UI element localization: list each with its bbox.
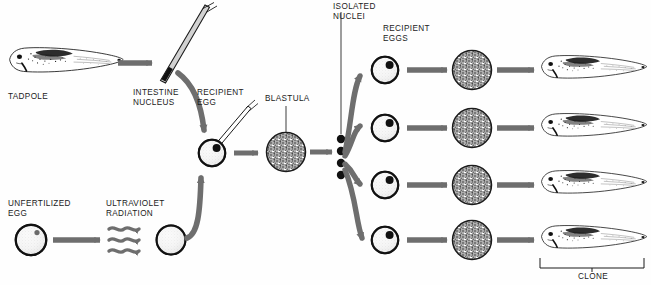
nuclei-distribution-arrows — [345, 76, 362, 238]
nucleus-dot-1 — [337, 135, 345, 143]
recipient-egg-row-3 — [372, 172, 398, 198]
blastula-row-4 — [453, 221, 492, 260]
tadpole-illustration — [10, 48, 124, 72]
label-intestine-nucleus: INTESTINE NUCLEUS — [133, 88, 179, 107]
blastula-row-2 — [453, 109, 492, 148]
recipient-egg-row-1 — [372, 57, 398, 83]
blastula-row-3 — [453, 166, 492, 205]
label-ultraviolet-radiation: ULTRAVIOLET RADIATION — [106, 199, 165, 218]
recipient-egg-row-4 — [372, 227, 398, 253]
uv-wave-2 — [109, 239, 139, 242]
label-recipient-egg: RECIPIENT EGG — [197, 88, 244, 107]
clone-row-4 — [372, 221, 647, 260]
clone-tadpole-row-2 — [542, 114, 647, 137]
micropipette-intestine-nucleus — [161, 3, 218, 84]
curved-arrow-enucleated-to-recipient — [187, 178, 201, 238]
label-tadpole: TADPOLE — [8, 92, 48, 102]
enucleated-egg — [157, 226, 186, 255]
recipient-egg-injection — [199, 100, 258, 166]
recipient-egg-row-2 — [372, 115, 398, 141]
uv-wave-1 — [109, 228, 139, 231]
clone-tadpole-row-1 — [542, 56, 647, 79]
egg-nucleus-dot — [34, 230, 39, 235]
clone-bracket — [540, 258, 644, 272]
label-isolated-nuclei: ISOLATED NUCLEI — [333, 2, 376, 21]
label-blastula: BLASTULA — [265, 94, 310, 104]
cloning-diagram: TADPOLE INTESTINE NUCLEUS RECIPIENT EGG … — [0, 0, 651, 285]
clone-row-1 — [372, 51, 647, 90]
uv-wave-3 — [109, 250, 139, 253]
label-recipient-eggs: RECIPIENT EGGS — [383, 24, 430, 43]
label-clone: CLONE — [578, 272, 608, 282]
diagram-canvas — [0, 0, 651, 285]
clone-row-2 — [372, 109, 647, 148]
clone-tadpole-row-4 — [542, 226, 647, 249]
blastula-row-1 — [453, 51, 492, 90]
clone-row-3 — [372, 166, 647, 205]
blastula-sphere — [267, 133, 306, 172]
clone-tadpole-row-3 — [542, 171, 647, 194]
label-unfertilized-egg: UNFERTILIZED EGG — [8, 199, 71, 218]
ultraviolet-wavy-arrows — [109, 228, 139, 253]
unfertilized-egg — [16, 225, 46, 255]
